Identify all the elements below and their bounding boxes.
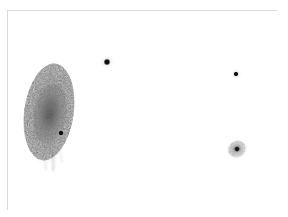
source-extended-galaxy	[15, 56, 83, 171]
galaxy-upper-plume	[39, 63, 59, 89]
astronomical-field-plot	[8, 11, 278, 211]
field-background	[8, 11, 278, 211]
galaxy-lower-filaments	[38, 135, 62, 171]
source-upper-point-source	[99, 54, 116, 71]
sky-field	[8, 11, 278, 211]
source-embedded-point-source	[55, 127, 67, 139]
source-compact-galaxy	[221, 134, 252, 164]
image-frame-border	[7, 10, 277, 210]
source-right-point-source	[230, 68, 243, 81]
image-canvas	[0, 0, 288, 217]
galaxy-mottling	[17, 60, 80, 164]
